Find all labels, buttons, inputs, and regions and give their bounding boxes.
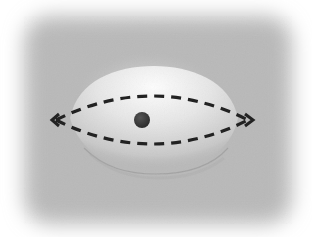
hole [134,112,150,128]
dome-illustration [0,0,312,237]
diagram-canvas [0,0,312,237]
